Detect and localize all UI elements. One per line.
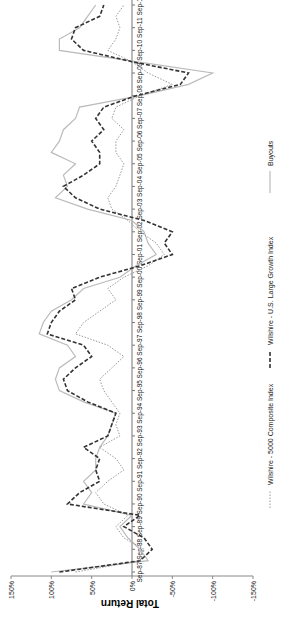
x-tick-label: Sep-92 [136, 448, 144, 469]
legend-label: Wilshire - U.S. Large Growth Index [267, 236, 275, 345]
legend-label: Buyouts [267, 140, 275, 166]
y-tick-label: 100% [48, 581, 55, 599]
x-tick-label: Sep-91 [136, 470, 144, 491]
x-axis: Sep-87Sep-88Sep-89Sep-90Sep-91Sep-92Sep-… [132, 0, 144, 582]
y-axis: 150%100%50%0%-50%-100%-150% [8, 576, 257, 601]
y-tick-label: -150% [250, 581, 257, 601]
x-tick-label: Sep-03 [136, 198, 144, 219]
legend: Wilshire - 5000 Composite IndexWilshire … [267, 140, 275, 508]
x-tick-label: Sep-12 [136, 0, 144, 15]
line-chart: 150%100%50%0%-50%-100%-150% Sep-87Sep-88… [0, 0, 281, 618]
legend-label: Wilshire - 5000 Composite Index [267, 383, 275, 485]
x-tick-label: Sep-06 [136, 130, 144, 151]
x-tick-label: Sep-99 [136, 289, 144, 310]
x-tick-label: Sep-00 [136, 266, 144, 287]
x-tick-label: Sep-90 [136, 493, 144, 514]
series-line-dashed [47, 5, 188, 572]
y-tick-label: 150% [8, 581, 15, 599]
x-tick-label: Sep-87 [136, 561, 144, 582]
x-tick-label: Sep-96 [136, 357, 144, 378]
chart-rotated-container: 150%100%50%0%-50%-100%-150% Sep-87Sep-88… [0, 0, 281, 618]
x-tick-label: Sep-05 [136, 153, 144, 174]
series-lines [39, 5, 213, 572]
y-tick-label: -50% [169, 581, 176, 597]
x-tick-label: Sep-98 [136, 312, 144, 333]
x-tick-label: Sep-07 [136, 108, 144, 129]
y-tick-label: 50% [89, 581, 96, 595]
y-tick-label: 0% [129, 581, 136, 591]
x-tick-label: Sep-97 [136, 334, 144, 355]
x-tick-label: Sep-04 [136, 176, 144, 197]
x-tick-label: Sep-94 [136, 402, 144, 423]
x-tick-label: Sep-95 [136, 380, 144, 401]
y-axis-label: Total Return [101, 598, 159, 609]
x-tick-label: Sep-11 [136, 17, 144, 38]
y-tick-label: -100% [210, 581, 217, 601]
series-line-solid [39, 5, 213, 572]
x-tick-label: Sep-10 [136, 39, 144, 60]
x-tick-label: Sep-93 [136, 425, 144, 446]
